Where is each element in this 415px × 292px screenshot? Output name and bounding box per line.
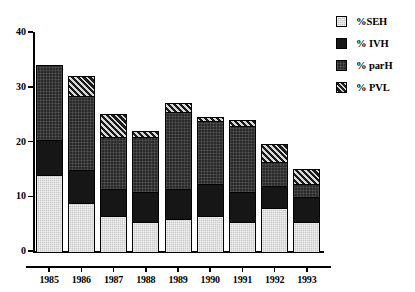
legend-swatch-pvl-icon bbox=[336, 82, 347, 93]
bar-segment-1993-pvl bbox=[294, 170, 319, 184]
x-tick-1991 bbox=[242, 266, 244, 272]
x-tick-1993 bbox=[306, 266, 308, 272]
bar-segment-1992-seh bbox=[262, 208, 287, 252]
legend-item-seh: %SEH bbox=[336, 10, 414, 32]
bar-segment-1987-parh bbox=[101, 137, 126, 189]
legend-label-seh: %SEH bbox=[356, 16, 387, 27]
x-tick-1987 bbox=[113, 266, 115, 272]
bar-segment-1989-pvl bbox=[166, 104, 191, 112]
bar-1987 bbox=[100, 114, 127, 251]
legend: %SEH% IVH% parH% PVL bbox=[336, 10, 414, 98]
bar-segment-1990-seh bbox=[198, 216, 223, 252]
bar-segment-1992-pvl bbox=[262, 145, 287, 161]
bar-1993 bbox=[293, 169, 320, 251]
y-tick-label-40: 40 bbox=[0, 27, 26, 37]
legend-item-pvl: % PVL bbox=[336, 76, 414, 98]
y-tick-label-30: 30 bbox=[0, 82, 26, 92]
bar-segment-1989-parh bbox=[166, 112, 191, 189]
bar-1990 bbox=[197, 117, 224, 251]
bar-segment-1985-parh bbox=[37, 66, 62, 140]
bar-segment-1985-seh bbox=[37, 175, 62, 252]
legend-item-parh: % parH bbox=[336, 54, 414, 76]
legend-swatch-seh-icon bbox=[336, 16, 347, 27]
bar-segment-1991-seh bbox=[230, 222, 255, 252]
plot-area bbox=[33, 32, 323, 251]
x-tick-1992 bbox=[274, 266, 276, 272]
y-tick-label-0: 0 bbox=[0, 246, 26, 256]
y-tick-label-20: 20 bbox=[0, 137, 26, 147]
bar-segment-1991-parh bbox=[230, 126, 255, 192]
bar-segment-1993-seh bbox=[294, 222, 319, 252]
y-tick-label-10: 10 bbox=[0, 191, 26, 201]
bar-1991 bbox=[229, 120, 256, 251]
bar-segment-1989-seh bbox=[166, 219, 191, 252]
bar-segment-1992-ivh bbox=[262, 186, 287, 208]
bar-segment-1986-ivh bbox=[69, 170, 94, 203]
legend-swatch-parh-icon bbox=[336, 60, 347, 71]
x-tick-1989 bbox=[177, 266, 179, 272]
bar-segment-1992-parh bbox=[262, 162, 287, 187]
bar-segment-1990-ivh bbox=[198, 184, 223, 217]
bar-segment-1986-seh bbox=[69, 203, 94, 252]
bar-segment-1987-ivh bbox=[101, 189, 126, 216]
bar-segment-1985-ivh bbox=[37, 140, 62, 176]
x-tick-1985 bbox=[48, 266, 50, 272]
bar-segment-1987-seh bbox=[101, 216, 126, 252]
legend-label-ivh: % IVH bbox=[356, 38, 388, 49]
x-tick-1986 bbox=[81, 266, 83, 272]
bar-1988 bbox=[132, 131, 159, 251]
bar-segment-1988-seh bbox=[133, 222, 158, 252]
bar-segment-1990-parh bbox=[198, 121, 223, 184]
legend-label-pvl: % PVL bbox=[356, 82, 390, 93]
bar-1986 bbox=[68, 76, 95, 251]
bar-segment-1987-pvl bbox=[101, 115, 126, 137]
x-tick-label-1993: 1993 bbox=[287, 274, 327, 285]
x-tick-1990 bbox=[209, 266, 211, 272]
legend-item-ivh: % IVH bbox=[336, 32, 414, 54]
bar-1985 bbox=[36, 65, 63, 251]
bar-segment-1993-parh bbox=[294, 184, 319, 198]
bar-segment-1988-parh bbox=[133, 137, 158, 192]
bar-segment-1986-parh bbox=[69, 96, 94, 170]
legend-label-parh: % parH bbox=[356, 60, 392, 71]
bar-segment-1986-pvl bbox=[69, 77, 94, 96]
bar-segment-1993-ivh bbox=[294, 197, 319, 222]
bar-segment-1991-ivh bbox=[230, 192, 255, 222]
bar-segment-1988-ivh bbox=[133, 192, 158, 222]
legend-swatch-ivh-icon bbox=[336, 38, 347, 49]
bar-segment-1989-ivh bbox=[166, 189, 191, 219]
bar-1992 bbox=[261, 144, 288, 251]
x-tick-1988 bbox=[145, 266, 147, 272]
chart-root: 010203040 198519861987198819891990199119… bbox=[0, 0, 415, 292]
bar-1989 bbox=[165, 103, 192, 251]
